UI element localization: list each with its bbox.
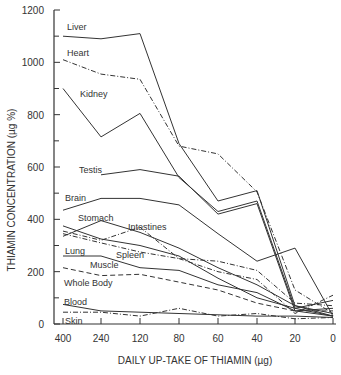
x-axis: 400240120806040200 — [54, 318, 336, 344]
y-axis-label: THIAMIN CONCENTRATION (µg %) — [6, 109, 17, 272]
y-tick-label: 600 — [27, 162, 44, 173]
x-tick-label: 0 — [330, 333, 336, 344]
series-label-testis: Testis — [79, 165, 103, 175]
y-tick-label: 800 — [27, 110, 44, 121]
series-label-lung: Lung — [65, 246, 85, 256]
series-line-testis — [101, 170, 333, 317]
series-label-liver: Liver — [67, 22, 87, 32]
series-label-spleen: Spleen — [116, 250, 144, 260]
series-label-skin: Skin — [65, 316, 83, 326]
x-tick-label: 120 — [132, 333, 149, 344]
y-tick-label: 200 — [27, 267, 44, 278]
series-label-intestines: Intestines — [128, 222, 167, 232]
x-tick-label: 80 — [173, 333, 185, 344]
series-lines — [63, 34, 333, 319]
y-tick-label: 0 — [38, 319, 44, 330]
x-tick-label: 240 — [93, 333, 110, 344]
x-tick-label: 40 — [251, 333, 263, 344]
thiamin-line-chart: 020040060080010001200 400240120806040200… — [0, 0, 341, 375]
y-tick-label: 400 — [27, 214, 44, 225]
x-tick-label: 60 — [212, 333, 224, 344]
x-axis-label: DAILY UP-TAKE OF THIAMIN (µg) — [118, 355, 273, 366]
x-tick-label: 20 — [289, 333, 301, 344]
series-label-blood: Blood — [64, 297, 87, 307]
series-label-muscle: Muscle — [90, 260, 119, 270]
y-tick-label: 1000 — [22, 57, 45, 68]
y-tick-label: 1200 — [22, 5, 45, 16]
series-label-heart: Heart — [67, 48, 90, 58]
x-tick-label: 400 — [55, 333, 72, 344]
series-label-stomach: Stomach — [78, 213, 114, 223]
series-label-whole-body: Whole Body — [64, 278, 113, 288]
y-axis: 020040060080010001200 — [22, 5, 60, 330]
series-line-blood — [63, 304, 333, 317]
series-label-brain: Brain — [65, 193, 86, 203]
series-label-kidney: Kidney — [80, 89, 108, 99]
